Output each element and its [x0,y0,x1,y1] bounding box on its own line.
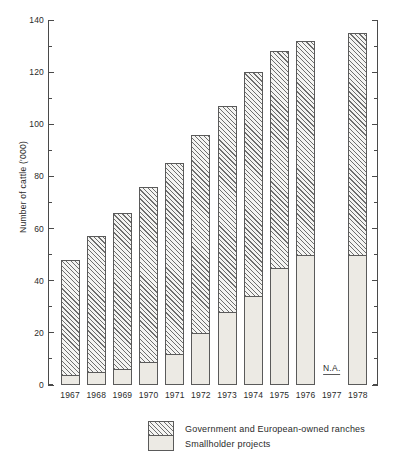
y-tick-label-120: 120 [29,67,44,77]
bar-segment-smallholder-1967 [61,375,80,385]
x-tick-label-1969: 1969 [113,390,133,400]
y-tick-major-60 [48,228,54,229]
bar-1976 [296,41,315,385]
y-tick-major-20 [48,332,54,333]
x-tick-label-1972: 1972 [191,390,211,400]
y-tick-minor-50 [374,254,378,255]
bar-segment-government-1967 [61,260,80,376]
plot-area: 020406080100120140 [48,20,378,385]
y-tick-major-120 [372,72,378,73]
y-tick-minor-110 [48,98,52,99]
cattle-stacked-bar-chart: Number of cattle ('000) 0204060801001201… [0,0,406,465]
y-tick-minor-90 [374,150,378,151]
y-tick-major-20 [372,332,378,333]
legend-item-government-ranches: Government and European-owned ranches [148,421,365,436]
y-tick-minor-130 [48,46,52,47]
bar-1973 [218,106,237,385]
x-tick-label-1973: 1973 [217,390,237,400]
x-tick-label-1976: 1976 [296,390,316,400]
bar-segment-smallholder-1968 [87,372,106,385]
bar-segment-government-1968 [87,236,106,373]
bar-segment-smallholder-1971 [165,354,184,385]
y-tick-minor-70 [374,202,378,203]
x-tick-label-1978: 1978 [348,390,368,400]
bar-segment-smallholder-1973 [218,312,237,385]
legend-label-smallholder-projects: Smallholder projects [185,439,271,449]
bar-segment-government-1972 [191,135,210,334]
bar-segment-smallholder-1976 [296,255,315,385]
bar-segment-government-1969 [113,213,132,370]
y-tick-minor-50 [48,254,52,255]
bar-1975 [270,51,289,385]
bar-segment-government-1973 [218,106,237,313]
y-tick-major-100 [48,124,54,125]
x-tick-label-1970: 1970 [139,390,159,400]
bar-segment-smallholder-1972 [191,333,210,385]
x-tick-label-1967: 1967 [60,390,80,400]
legend-swatch-stipple-icon [148,436,174,451]
x-tick-label-1977: 1977 [322,390,342,400]
x-tick-label-1975: 1975 [270,390,290,400]
y-tick-minor-110 [374,98,378,99]
bar-1968 [87,236,106,385]
y-tick-minor-30 [48,306,52,307]
bar-1967 [61,260,80,385]
bar-1972 [191,135,210,385]
y-tick-minor-30 [374,306,378,307]
bar-1970 [139,187,158,385]
y-tick-minor-10 [48,358,52,359]
y-tick-major-0 [48,385,54,386]
y-tick-minor-90 [48,150,52,151]
bar-segment-smallholder-1970 [139,362,158,385]
y-tick-label-60: 60 [34,224,44,234]
bar-1969 [113,213,132,385]
y-tick-major-120 [48,72,54,73]
x-tick-label-1971: 1971 [165,390,185,400]
bar-segment-government-1976 [296,41,315,256]
y-tick-major-0 [372,385,378,386]
y-tick-major-60 [372,228,378,229]
y-tick-minor-130 [374,46,378,47]
bar-1971 [165,163,184,385]
no-data-marker-1977: N.A. [323,363,341,375]
y-tick-minor-70 [48,202,52,203]
y-tick-major-80 [372,176,378,177]
bar-segment-smallholder-1978 [348,255,367,385]
y-axis-title: Number of cattle ('000) [18,112,28,262]
legend-item-smallholder-projects: Smallholder projects [148,436,365,451]
legend-label-government-ranches: Government and European-owned ranches [185,424,365,434]
legend-swatch-hatch-icon [148,421,174,436]
x-tick-label-1968: 1968 [86,390,106,400]
bar-segment-government-1975 [270,51,289,268]
x-tick-label-1974: 1974 [243,390,263,400]
y-tick-major-80 [48,176,54,177]
bar-segment-government-1970 [139,187,158,363]
bar-segment-government-1974 [244,72,263,297]
y-tick-label-100: 100 [29,119,44,129]
bar-segment-smallholder-1974 [244,296,263,385]
y-tick-major-40 [48,280,54,281]
bar-1974 [244,72,263,385]
y-tick-major-140 [372,20,378,21]
y-tick-major-140 [48,20,54,21]
bar-segment-government-1978 [348,33,367,256]
y-tick-label-40: 40 [34,276,44,286]
bar-1978 [348,33,367,385]
bar-segment-smallholder-1975 [270,268,289,385]
y-tick-major-100 [372,124,378,125]
bar-segment-smallholder-1969 [113,369,132,385]
y-tick-major-40 [372,280,378,281]
y-tick-label-0: 0 [39,380,44,390]
y-tick-label-140: 140 [29,15,44,25]
y-tick-label-80: 80 [34,171,44,181]
y-tick-label-20: 20 [34,328,44,338]
bar-segment-government-1971 [165,163,184,354]
y-tick-minor-10 [374,358,378,359]
chart-legend: Government and European-owned ranches Sm… [148,421,365,451]
